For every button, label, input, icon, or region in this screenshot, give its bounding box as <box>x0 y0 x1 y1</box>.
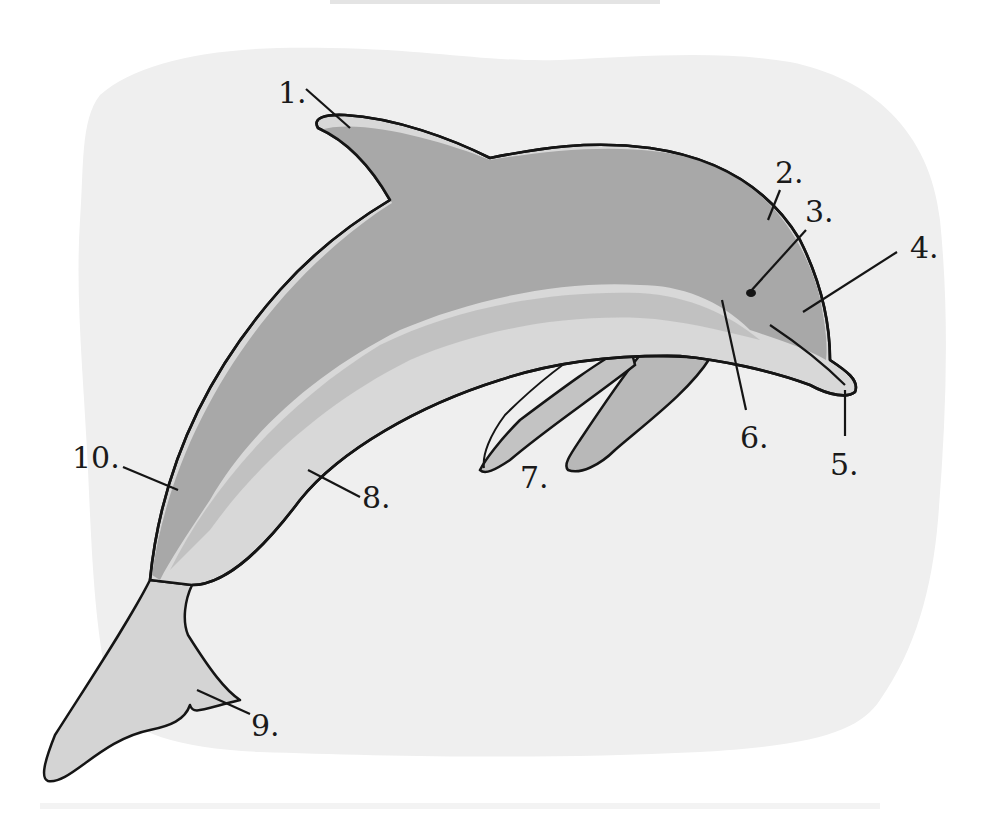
callout-7: 7. <box>520 460 549 495</box>
callout-8: 8. <box>362 480 391 515</box>
callout-10: 10. <box>72 440 120 475</box>
callout-4: 4. <box>910 230 939 265</box>
dolphin-diagram: 1. 2. 3. 4. 5. 6. 7. 8. 9. 10. <box>0 0 984 819</box>
callout-1: 1. <box>278 75 307 110</box>
callout-9: 9. <box>251 708 280 743</box>
callout-6: 6. <box>740 420 769 455</box>
callout-2: 2. <box>775 155 804 190</box>
callout-3: 3. <box>805 194 834 229</box>
callout-5: 5. <box>830 447 859 482</box>
